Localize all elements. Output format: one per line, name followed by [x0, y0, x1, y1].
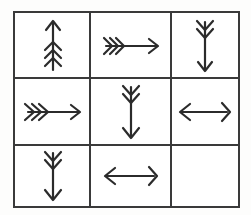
arrow-down-fletch2-icon [111, 82, 151, 142]
arrow-left-fletch1-icon [177, 97, 233, 127]
matrix-frame [13, 11, 240, 208]
cell-r2c1[interactable] [15, 78, 90, 145]
arrow-down-fletch2-icon [185, 17, 225, 75]
cell-r1c2[interactable] [90, 13, 171, 78]
cell-r3c1[interactable] [15, 145, 90, 206]
cell-r3c2[interactable] [90, 145, 171, 206]
cell-r2c3[interactable] [171, 78, 238, 145]
arrow-up-fletch3-icon [30, 17, 76, 75]
cell-r1c1[interactable] [15, 13, 90, 78]
arrow-left-fletch1-icon [102, 161, 160, 191]
arrow-right-fletch3-icon [22, 95, 84, 129]
cell-r3c3-missing[interactable] [171, 145, 238, 206]
cell-r2c2[interactable] [90, 78, 171, 145]
matrix-cell-layer [15, 13, 238, 206]
puzzle-canvas [0, 0, 251, 215]
cell-r1c3[interactable] [171, 13, 238, 78]
arrow-right-fletch3-icon [100, 29, 162, 63]
arrow-down-fletch2-icon [33, 148, 73, 204]
